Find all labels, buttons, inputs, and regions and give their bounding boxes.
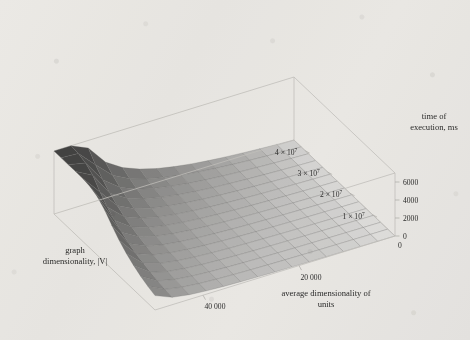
origin-tick-label: 0 [398, 241, 402, 250]
y-tick-exponent: 7 [317, 168, 320, 174]
y-axis-title-line2: dimensionality, |V| [43, 256, 108, 266]
y-tick-label: 3 × 107 [298, 168, 320, 178]
z-tick-label: 4000 [403, 196, 418, 205]
surface-plot-figure: 1 × 1072 × 1073 × 1074 × 107 20 00040 00… [0, 0, 470, 340]
z-tick-label: 0 [403, 232, 407, 241]
x-tick-label: 40 000 [205, 302, 226, 311]
y-tick-exponent: 7 [362, 211, 365, 217]
x-tick-label: 20 000 [301, 273, 322, 282]
y-tick-exponent: 7 [339, 189, 342, 195]
y-tick-label: 1 × 107 [342, 211, 364, 221]
z-tick-label: 2000 [403, 214, 418, 223]
x-axis-title-line2: units [318, 299, 335, 309]
z-axis-title-line2: execution, ms [410, 122, 458, 132]
z-tick-label: 6000 [403, 178, 418, 187]
z-axis-tick-labels: 0200040006000 [403, 178, 418, 241]
y-tick-label: 4 × 107 [275, 147, 297, 157]
y-axis-title-line1: graph [65, 245, 85, 255]
x-axis-title-line1: average dimensionality of [281, 288, 370, 298]
z-axis-title-line1: time of [422, 111, 447, 121]
y-tick-label: 2 × 107 [320, 189, 342, 199]
y-tick-exponent: 7 [295, 147, 298, 153]
